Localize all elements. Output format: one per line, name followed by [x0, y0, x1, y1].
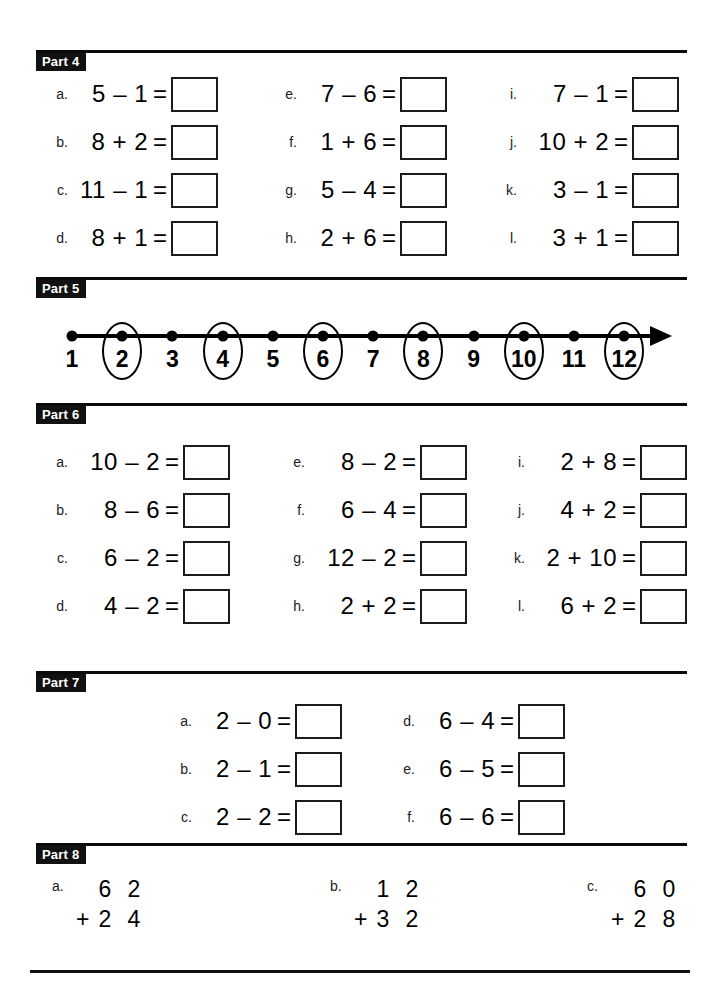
equals-sign: =	[617, 496, 640, 524]
problem-letter: b.	[330, 878, 342, 894]
answer-box[interactable]	[640, 541, 687, 576]
answer-box[interactable]	[632, 125, 679, 160]
problem-expression: 2 – 0	[198, 707, 272, 735]
answer-box[interactable]	[640, 493, 687, 528]
number-line-dot-8[interactable]	[418, 331, 429, 342]
answer-box[interactable]	[171, 221, 218, 256]
number-line-label-11: 11	[562, 346, 586, 373]
answer-box[interactable]	[295, 704, 342, 739]
answer-box[interactable]	[640, 445, 687, 480]
section-rule	[36, 843, 687, 846]
answer-box[interactable]	[171, 125, 218, 160]
number-line-label-7: 7	[367, 346, 380, 373]
vertical-sum-stack: 6 2 + 2 4	[76, 874, 145, 934]
number-line-arrow-icon	[650, 326, 672, 346]
number-line-dot-7[interactable]	[368, 331, 379, 342]
answer-box[interactable]	[171, 173, 218, 208]
problem-letter: b.	[46, 134, 74, 150]
answer-box[interactable]	[400, 125, 447, 160]
number-line-dot-10[interactable]	[518, 331, 529, 342]
problem-letter: h.	[275, 230, 303, 246]
plus-operator: +	[611, 904, 624, 934]
problem-row: e. 7 – 6 =	[275, 75, 447, 113]
problem-row: k. 2 + 10 =	[503, 539, 687, 577]
number-line-dot-5[interactable]	[267, 331, 278, 342]
problem-expression: 8 – 2	[311, 448, 397, 476]
number-line-label-9: 9	[467, 346, 480, 373]
problem-letter: h.	[283, 598, 311, 614]
problem-letter: e.	[283, 454, 311, 470]
number-line-label-5: 5	[266, 346, 279, 373]
answer-box[interactable]	[632, 173, 679, 208]
equals-sign: =	[148, 80, 171, 108]
answer-box[interactable]	[183, 541, 230, 576]
number-line-dot-2[interactable]	[117, 331, 128, 342]
problem-expression: 2 + 2	[311, 592, 397, 620]
problem-row: f. 6 – 4 =	[283, 491, 467, 529]
answer-box[interactable]	[295, 800, 342, 835]
problem-letter: g.	[275, 182, 303, 198]
answer-box[interactable]	[420, 541, 467, 576]
section-tag-part-6: Part 6	[36, 406, 86, 424]
equals-sign: =	[377, 80, 400, 108]
problem-expression: 2 – 2	[198, 803, 272, 831]
answer-box[interactable]	[420, 493, 467, 528]
section-rule	[36, 277, 687, 280]
problem-letter: c.	[170, 809, 198, 825]
answer-box[interactable]	[518, 800, 565, 835]
problem-row: g. 12 – 2 =	[283, 539, 467, 577]
section-tag-part-8: Part 8	[36, 846, 86, 864]
problem-row: i. 7 – 1 =	[495, 75, 679, 113]
problem-expression: 11 – 1	[74, 176, 148, 204]
equals-sign: =	[495, 707, 518, 735]
number-line-dot-1[interactable]	[67, 331, 78, 342]
answer-box[interactable]	[400, 173, 447, 208]
equals-sign: =	[609, 80, 632, 108]
problem-row: e. 8 – 2 =	[283, 443, 467, 481]
equals-sign: =	[397, 496, 420, 524]
number-line-dot-3[interactable]	[167, 331, 178, 342]
number-line-label-4: 4	[216, 346, 229, 373]
problem-expression: 5 – 4	[303, 176, 377, 204]
answer-box[interactable]	[183, 493, 230, 528]
number-line-dot-4[interactable]	[217, 331, 228, 342]
answer-box[interactable]	[420, 445, 467, 480]
problem-row: i. 2 + 8 =	[503, 443, 687, 481]
number-line-dot-9[interactable]	[468, 331, 479, 342]
answer-box[interactable]	[183, 589, 230, 624]
problem-expression: 2 + 8	[531, 448, 617, 476]
answer-box[interactable]	[518, 752, 565, 787]
problem-letter: a.	[46, 454, 74, 470]
answer-box[interactable]	[295, 752, 342, 787]
answer-box[interactable]	[632, 221, 679, 256]
problem-letter: k.	[495, 182, 523, 198]
problem-expression: 6 – 5	[421, 755, 495, 783]
answer-box[interactable]	[640, 589, 687, 624]
addend-top: 1 2	[354, 874, 423, 904]
problem-letter: l.	[495, 230, 523, 246]
problem-letter: j.	[495, 134, 523, 150]
equals-sign: =	[495, 803, 518, 831]
problem-letter: k.	[503, 550, 531, 566]
answer-box[interactable]	[400, 77, 447, 112]
equals-sign: =	[148, 128, 171, 156]
answer-box[interactable]	[518, 704, 565, 739]
answer-box[interactable]	[183, 445, 230, 480]
problem-row: e. 6 – 5 =	[393, 750, 565, 788]
addend-bottom-row: + 2 8	[611, 904, 680, 934]
addend-bottom-row: + 2 4	[76, 904, 145, 934]
problem-letter: f.	[393, 809, 421, 825]
problem-letter: c.	[46, 550, 74, 566]
problem-row: l. 6 + 2 =	[503, 587, 687, 625]
answer-box[interactable]	[632, 77, 679, 112]
number-line-dot-6[interactable]	[318, 331, 329, 342]
answer-box[interactable]	[420, 589, 467, 624]
problem-letter: a.	[46, 86, 74, 102]
equals-sign: =	[397, 592, 420, 620]
answer-box[interactable]	[400, 221, 447, 256]
problem-expression: 2 – 1	[198, 755, 272, 783]
number-line-dot-11[interactable]	[569, 331, 580, 342]
answer-box[interactable]	[171, 77, 218, 112]
problem-letter: g.	[283, 550, 311, 566]
number-line-dot-12[interactable]	[619, 331, 630, 342]
